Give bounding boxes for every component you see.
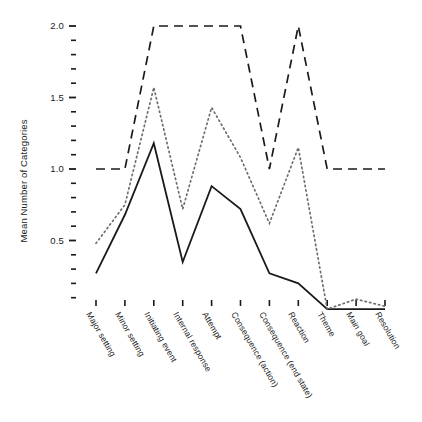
data-series-layer <box>96 26 385 309</box>
x-axis-ticks <box>96 300 385 306</box>
y-axis-major-ticks <box>69 26 76 241</box>
y-axis-tick-label: 0.5 <box>30 235 64 246</box>
series-line-solid <box>96 143 385 309</box>
figure-canvas: Mean Number of Categories 2.01.51.00.5 M… <box>0 0 422 422</box>
y-axis-tick-label: 1.5 <box>30 92 64 103</box>
y-axis-tick-label: 1.0 <box>30 163 64 174</box>
series-line-dotted <box>96 87 385 309</box>
y-axis-tick-label: 2.0 <box>30 20 64 31</box>
chart-plot-area <box>0 0 422 422</box>
